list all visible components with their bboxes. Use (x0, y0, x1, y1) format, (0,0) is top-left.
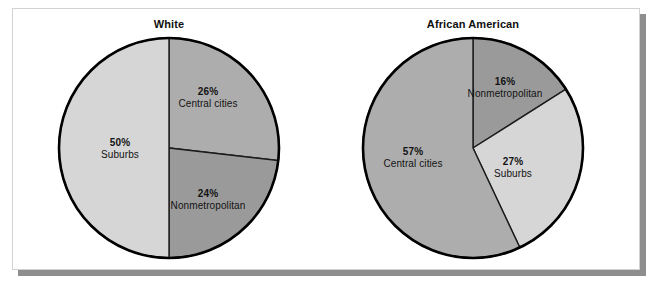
pie-slice-white-central-cities[interactable] (169, 38, 279, 161)
pie-chart-white: White 26% Central cities 24 (12, 8, 326, 270)
charts-container: White 26% Central cities 24 (12, 8, 640, 270)
pie-slice-white-suburbs[interactable] (59, 38, 169, 258)
pie-chart-african-american: African American 16% Nonmetropolitan 2 (316, 8, 630, 270)
pie-canvas-white: 26% Central cities 24% Nonmetropolitan 5… (57, 36, 281, 260)
figure-root: White 26% Central cities 24 (0, 0, 659, 297)
chart-title-white: White (12, 18, 326, 30)
pie-canvas-african-american: 16% Nonmetropolitan 27% Suburbs 57% Cent… (361, 36, 585, 260)
pie-slice-white-nonmetropolitan[interactable] (169, 148, 278, 258)
chart-title-african-american: African American (316, 18, 630, 30)
